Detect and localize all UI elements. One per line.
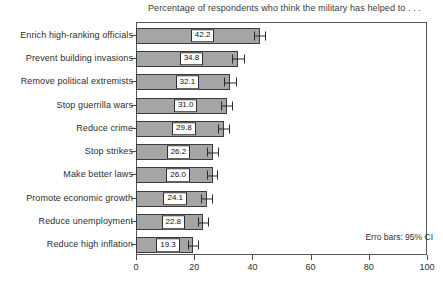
bar-row: 32.1 — [137, 74, 426, 90]
x-axis-tick-label: 0 — [133, 262, 138, 272]
category-label-6: Make better laws — [63, 169, 133, 179]
bar-row: 42.2 — [137, 28, 426, 44]
category-label-9: Reduce high inflation — [47, 239, 133, 249]
error-bar-cap-right — [217, 171, 218, 180]
error-bar — [221, 101, 233, 110]
error-bar-cap-left — [201, 194, 202, 203]
error-bar — [207, 171, 219, 180]
error-bar-cap-left — [207, 171, 208, 180]
error-bar-cap-left — [218, 124, 219, 133]
bar-value-label: 26.0 — [166, 169, 190, 183]
error-bar-cap-right — [232, 101, 233, 110]
error-bar-cap-right — [265, 31, 266, 40]
error-bar — [207, 148, 219, 157]
bar-value-label: 42.2 — [191, 29, 215, 43]
error-bar-cap-left — [254, 31, 255, 40]
error-bar-cap-left — [188, 241, 189, 250]
error-bar-cap-left — [207, 148, 208, 157]
bar-row: 26.0 — [137, 167, 426, 183]
error-bar-cap-left — [198, 218, 199, 227]
category-label-1: Prevent building invasions — [26, 53, 133, 63]
bar-row: 31.0 — [137, 98, 426, 114]
error-bar — [198, 218, 210, 227]
error-bar — [254, 31, 266, 40]
error-bar-annotation: Erro bars: 95% CI — [365, 232, 433, 242]
x-axis-tick-label: 80 — [364, 262, 374, 272]
bar-value-label: 32.1 — [176, 76, 200, 90]
chart-title: Percentage of respondents who think the … — [148, 3, 421, 13]
error-bar-cap-right — [198, 241, 199, 250]
plot-area: 42.234.832.131.029.826.226.024.122.819.3 — [137, 23, 426, 254]
category-label-4: Reduce crime — [76, 123, 133, 133]
bar-row: 29.8 — [137, 121, 426, 137]
x-axis-tick-label: 20 — [189, 262, 199, 272]
chart-container: Percentage of respondents who think the … — [0, 0, 443, 286]
plot-frame: 42.234.832.131.029.826.226.024.122.819.3 — [136, 22, 427, 255]
error-bar-cap-right — [244, 54, 245, 63]
bar-row: 24.1 — [137, 191, 426, 207]
error-bar — [201, 194, 213, 203]
error-bar — [188, 241, 199, 250]
error-bar — [224, 78, 236, 87]
error-bar-cap-left — [221, 101, 222, 110]
bar-value-label: 19.3 — [156, 239, 180, 253]
error-bar-cap-right — [212, 194, 213, 203]
error-bar-cap-right — [236, 78, 237, 87]
x-axis-tick-label: 60 — [306, 262, 316, 272]
error-bar-cap-right — [208, 218, 209, 227]
category-label-7: Promote economic growth — [26, 193, 133, 203]
bar-value-label: 24.1 — [163, 192, 187, 206]
x-axis-tick — [136, 255, 137, 260]
bar-row: 22.8 — [137, 214, 426, 230]
x-axis-tick — [427, 255, 428, 260]
bar-value-label: 34.8 — [180, 52, 204, 66]
category-label-5: Stop strikes — [85, 146, 133, 156]
x-axis-tick — [252, 255, 253, 260]
x-axis-tick — [369, 255, 370, 260]
error-bar — [218, 124, 230, 133]
x-axis-tick-label: 100 — [419, 262, 434, 272]
x-axis-tick-label: 40 — [247, 262, 257, 272]
error-bar-cap-right — [218, 148, 219, 157]
error-bar — [232, 54, 245, 63]
bar-row: 26.2 — [137, 144, 426, 160]
error-bar-cap-left — [224, 78, 225, 87]
x-axis-tick — [311, 255, 312, 260]
error-bar-cap-left — [232, 54, 233, 63]
x-axis-tick — [194, 255, 195, 260]
category-label-2: Remove political extremists — [21, 76, 133, 86]
bar-value-label: 29.8 — [172, 122, 196, 136]
bar-value-label: 26.2 — [167, 145, 191, 159]
category-label-8: Reduce unemployment — [39, 216, 133, 226]
bar-value-label: 22.8 — [162, 215, 186, 229]
category-label-0: Enrich high-ranking officials — [20, 30, 133, 40]
category-label-3: Stop guerrilla wars — [57, 100, 133, 110]
bar-value-label: 31.0 — [174, 99, 198, 113]
error-bar-cap-right — [229, 124, 230, 133]
bar-row: 34.8 — [137, 51, 426, 67]
